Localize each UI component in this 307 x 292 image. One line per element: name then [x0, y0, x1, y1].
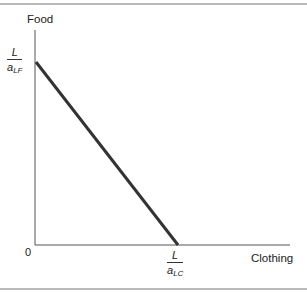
y-intercept-denominator: aLF	[7, 61, 22, 77]
x-intercept-label: L aLC	[167, 249, 183, 280]
y-axis-label: Food	[27, 13, 53, 25]
origin-label: 0	[25, 246, 31, 258]
x-axis-label: Clothing	[251, 252, 293, 264]
y-intercept-label: L aLF	[7, 46, 22, 77]
y-intercept-numerator: L	[10, 46, 20, 58]
fraction-bar	[7, 59, 22, 60]
ppf-diagram	[0, 0, 307, 292]
x-intercept-denominator: aLC	[167, 264, 183, 280]
x-intercept-numerator: L	[170, 249, 180, 261]
fraction-bar	[167, 262, 183, 263]
ppf-line	[36, 62, 178, 245]
